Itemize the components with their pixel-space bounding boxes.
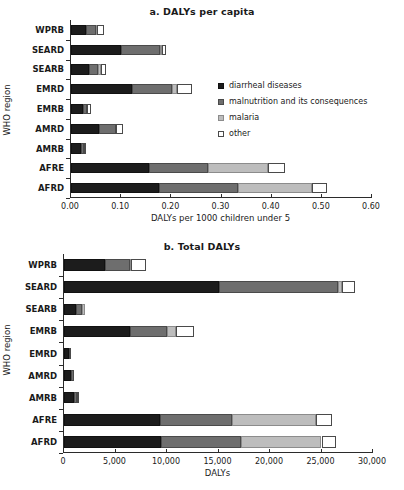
bar-segment <box>64 370 71 381</box>
bar-segment <box>219 281 338 292</box>
y-axis-tick <box>59 453 63 454</box>
bar-segment <box>208 163 268 173</box>
bar-segment <box>71 104 83 114</box>
y-axis-tick <box>66 198 70 199</box>
bar-stack <box>71 163 372 173</box>
y-axis-tick <box>59 320 63 321</box>
bar-segment <box>316 414 331 425</box>
bar-segment <box>116 124 124 134</box>
y-axis-category-label: SEARD <box>25 282 57 292</box>
x-axis-tick-label: 15,000 <box>204 457 232 466</box>
x-axis-tick-label: 5,000 <box>103 457 126 466</box>
x-axis-tick-label: 0.60 <box>362 202 380 211</box>
y-axis-tick <box>66 40 70 41</box>
panel-b-plot-area: DALYs 05,00010,00015,00020,00025,00030,0… <box>63 254 372 453</box>
bar-stack <box>71 183 372 193</box>
y-axis-category-label: EMRD <box>36 84 64 94</box>
bar-segment <box>71 25 86 35</box>
chart-panel-a: a. DALYs per capita WHO region DALYs per… <box>0 0 404 240</box>
x-axis-tick-label: 0.50 <box>312 202 330 211</box>
y-axis-tick <box>59 298 63 299</box>
panel-a-legend: diarrheal diseases malnutrition and its … <box>218 78 367 142</box>
legend-item: malaria <box>218 110 367 126</box>
x-axis-tick <box>321 194 322 198</box>
x-axis-tick-label: 25,000 <box>307 457 335 466</box>
y-axis-category-label: WPRB <box>35 25 64 35</box>
bar-segment <box>71 143 81 153</box>
bar-segment <box>149 163 208 173</box>
legend-label: other <box>229 129 250 139</box>
y-axis-tick <box>59 365 63 366</box>
y-axis-category-label: SEARB <box>25 304 57 314</box>
bar-segment <box>176 326 194 337</box>
bar-segment <box>87 104 91 114</box>
legend-swatch-icon <box>218 115 224 121</box>
y-axis-category-label: AFRD <box>38 183 64 193</box>
bar-segment <box>97 25 104 35</box>
bar-segment <box>177 84 192 94</box>
y-axis-category-label: SEARB <box>32 64 64 74</box>
y-axis-tick <box>59 409 63 410</box>
bar-stack <box>64 259 373 270</box>
x-axis-tick-label: 30,000 <box>358 457 386 466</box>
x-axis-tick-label: 20,000 <box>255 457 283 466</box>
bar-segment <box>71 183 159 193</box>
bar-segment <box>130 326 167 337</box>
x-axis-tick-label: 0.40 <box>262 202 280 211</box>
x-axis-tick-label: 0 <box>60 457 65 466</box>
bar-stack <box>64 281 373 292</box>
bar-stack <box>64 370 373 381</box>
bar-segment <box>232 414 316 425</box>
y-axis-tick <box>66 119 70 120</box>
x-axis-tick-label: 10,000 <box>152 457 180 466</box>
panel-a-title: a. DALYs per capita <box>0 6 404 17</box>
bar-segment <box>238 183 312 193</box>
x-axis-tick-label: 0.30 <box>212 202 230 211</box>
y-axis-category-label: AMRB <box>29 393 57 403</box>
x-axis-tick <box>321 449 322 453</box>
x-axis-tick <box>271 194 272 198</box>
y-axis-tick <box>66 60 70 61</box>
bar-segment <box>64 259 105 270</box>
bar-segment <box>71 124 99 134</box>
y-axis-tick <box>59 276 63 277</box>
x-axis-tick <box>115 449 116 453</box>
y-axis-category-label: AMRB <box>36 144 64 154</box>
y-axis-tick <box>59 342 63 343</box>
panel-a-y-axis-title: WHO region <box>2 84 12 135</box>
y-axis-tick <box>66 139 70 140</box>
y-axis-category-label: AFRE <box>32 415 57 425</box>
y-axis-category-label: EMRB <box>37 104 64 114</box>
x-axis-tick <box>120 194 121 198</box>
y-axis-tick <box>66 158 70 159</box>
bar-stack <box>64 326 373 337</box>
bar-segment <box>342 281 355 292</box>
legend-item: malnutrition and its consequences <box>218 94 367 110</box>
x-axis-tick <box>218 449 219 453</box>
x-axis-tick <box>63 449 64 453</box>
bar-segment <box>159 183 238 193</box>
bar-segment <box>71 370 74 381</box>
bar-segment <box>89 64 99 74</box>
bar-stack <box>64 304 373 315</box>
bar-stack <box>71 64 372 74</box>
bar-segment <box>241 436 321 447</box>
y-axis-category-label: AFRD <box>31 437 57 447</box>
y-axis-category-label: EMRB <box>30 326 57 336</box>
bar-segment <box>64 304 76 315</box>
bar-stack <box>71 143 372 153</box>
bar-stack <box>64 348 373 359</box>
bar-segment <box>131 259 146 270</box>
figure-stacked-bar-charts: a. DALYs per capita WHO region DALYs per… <box>0 0 404 490</box>
bar-segment <box>322 436 336 447</box>
panel-b-x-axis-title: DALYs <box>63 468 372 478</box>
bar-segment <box>268 163 285 173</box>
bar-segment <box>64 392 74 403</box>
legend-swatch-icon <box>218 83 224 89</box>
y-axis-category-label: WPRB <box>28 260 57 270</box>
bar-segment <box>99 124 116 134</box>
x-axis-tick-label: 0.10 <box>111 202 129 211</box>
bar-segment <box>121 45 160 55</box>
bar-segment <box>162 45 166 55</box>
bar-stack <box>64 414 373 425</box>
